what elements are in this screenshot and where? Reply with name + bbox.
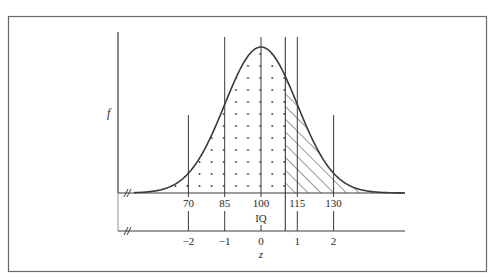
- iq-tick-label: 115: [289, 197, 306, 209]
- normal-distribution-figure: f IQ z 7085100115130 −2−1012: [0, 0, 501, 278]
- iq-tick-label: 85: [219, 197, 231, 209]
- z-tick-label: 1: [295, 235, 301, 247]
- z-axis-label: z: [258, 248, 264, 260]
- figure-canvas: f IQ z 7085100115130 −2−1012: [0, 0, 501, 278]
- iq-tick-label: 130: [325, 197, 342, 209]
- z-tick-label: 0: [258, 235, 264, 247]
- dotted-region-left-of-cutoff: [134, 47, 405, 193]
- iq-tick-label: 100: [253, 197, 270, 209]
- z-tick-label: −2: [183, 235, 195, 247]
- iq-axis-label: IQ: [255, 212, 267, 224]
- z-tick-label: 2: [331, 235, 337, 247]
- z-tick-label: −1: [219, 235, 231, 247]
- y-axis-label: f: [107, 106, 112, 120]
- iq-tick-label: 70: [183, 197, 195, 209]
